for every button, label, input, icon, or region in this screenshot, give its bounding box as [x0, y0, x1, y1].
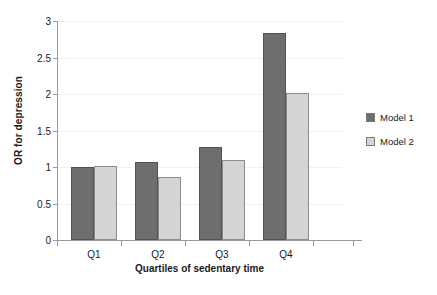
y-axis-tick-label: 3 — [45, 16, 51, 27]
y-axis-tick-mark — [53, 58, 57, 59]
x-axis-tick-mark — [313, 241, 314, 246]
bar-group — [135, 21, 181, 240]
x-axis-tick-mark — [121, 241, 122, 246]
bar-q2-model-2 — [158, 177, 181, 240]
y-axis-tick-label: 2.5 — [37, 52, 51, 63]
bar-q3-model-1 — [199, 147, 222, 240]
x-axis-tick-label-q4: Q4 — [279, 249, 292, 260]
legend-swatch-icon — [366, 113, 375, 122]
x-axis-title: Quartiles of sedentary time — [57, 263, 342, 274]
x-axis-tick-mark — [57, 241, 58, 246]
x-axis-tick-mark — [185, 241, 186, 246]
y-axis-tick-label: 1 — [45, 162, 51, 173]
legend-label: Model 1 — [380, 112, 414, 123]
bar-q4-model-1 — [263, 33, 286, 240]
bar-q3-model-2 — [222, 160, 245, 240]
y-axis-tick-mark — [53, 131, 57, 132]
x-axis-line — [57, 240, 362, 241]
bar-chart-figure: OR for depression 00.511.522.53 Q1Q2Q3Q4… — [0, 0, 437, 295]
bar-q4-model-2 — [286, 93, 309, 240]
x-axis-tick-label-q3: Q3 — [215, 249, 228, 260]
legend-swatch-icon — [366, 137, 375, 146]
bar-group — [199, 21, 245, 240]
y-axis-tick-label: 2 — [45, 89, 51, 100]
y-axis-tick-mark — [53, 21, 57, 22]
x-axis-tick-label-q1: Q1 — [87, 249, 100, 260]
legend-item-model-2[interactable]: Model 2 — [366, 136, 414, 147]
y-axis-title-text: OR for depression — [13, 76, 24, 165]
y-axis-tick-mark — [53, 167, 57, 168]
bar-q2-model-1 — [135, 162, 158, 240]
bar-q1-model-1 — [71, 167, 94, 240]
y-axis-tick-mark — [53, 94, 57, 95]
y-axis-tick-label: 0 — [45, 235, 51, 246]
bar-group — [71, 21, 117, 240]
bar-group — [263, 21, 309, 240]
y-axis-tick-label: 1.5 — [37, 125, 51, 136]
x-axis-tick-mark — [249, 241, 250, 246]
bar-q1-model-2 — [94, 166, 117, 240]
x-axis-tick-mark — [353, 241, 354, 246]
y-axis-title: OR for depression — [8, 0, 28, 240]
chart-legend: Model 1Model 2 — [366, 112, 414, 160]
legend-label: Model 2 — [380, 136, 414, 147]
plot-area: 00.511.522.53 Q1Q2Q3Q4 — [57, 21, 342, 240]
y-axis-tick-mark — [53, 204, 57, 205]
x-axis-tick-label-q2: Q2 — [151, 249, 164, 260]
legend-item-model-1[interactable]: Model 1 — [366, 112, 414, 123]
y-axis-tick-label: 0.5 — [37, 198, 51, 209]
